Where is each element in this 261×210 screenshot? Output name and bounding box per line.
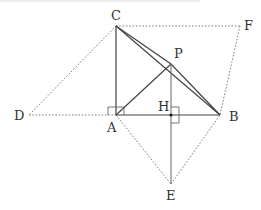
label-F: F [244,18,253,33]
label-D: D [14,108,24,123]
label-B: B [229,109,239,124]
segment-AE [116,115,171,184]
label-E: E [166,188,176,203]
label-C: C [111,8,121,23]
label-A: A [106,120,117,135]
geometry-diagram: C F D A B H P E [0,0,261,210]
segment-EB [171,115,220,184]
segment-CD [29,26,116,115]
label-P: P [174,46,183,61]
right-angle-mark-A [108,107,116,115]
segment-FB [220,26,240,115]
label-H: H [158,99,169,114]
point-H-dot [169,113,172,116]
